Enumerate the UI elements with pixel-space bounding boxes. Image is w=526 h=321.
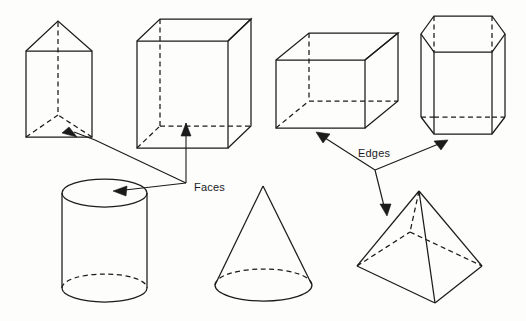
solid-cube bbox=[276, 33, 398, 128]
cube-top-face bbox=[276, 33, 398, 60]
square-pyramid-base-hidden-left bbox=[357, 232, 410, 266]
solid-rectangular-prism bbox=[137, 19, 251, 148]
faces-annotation: Faces bbox=[62, 123, 225, 196]
cone-slant-right bbox=[263, 186, 312, 285]
solid-cone bbox=[215, 186, 312, 301]
faces-leader-to-triangular-prism bbox=[95, 140, 186, 183]
edges-annotation: Edges bbox=[316, 132, 448, 216]
cube-hidden-bottom-edge-left bbox=[276, 101, 309, 128]
figure-canvas: Faces Edges bbox=[0, 0, 526, 321]
solid-triangular-prism bbox=[26, 21, 92, 137]
cylinder-top-face bbox=[62, 179, 147, 207]
square-pyramid-base-hidden-right bbox=[410, 232, 482, 266]
solid-cylinder bbox=[62, 179, 147, 302]
edges-label: Edges bbox=[358, 147, 390, 159]
cube-right-face bbox=[365, 33, 398, 128]
cone-base-front-arc bbox=[215, 285, 312, 301]
faces-leader-to-cylinder bbox=[125, 183, 186, 190]
faces-arrowhead-rectangular-prism bbox=[181, 123, 191, 136]
faces-label: Faces bbox=[194, 181, 225, 193]
triangular-prism-top-triangle bbox=[26, 21, 92, 51]
solid-square-pyramid bbox=[357, 191, 482, 303]
triangular-prism-hidden-base-edge-right bbox=[58, 115, 92, 137]
edges-arrowhead-cube bbox=[316, 132, 330, 143]
square-pyramid-base-front-left bbox=[357, 266, 435, 303]
cylinder-bottom-back-arc bbox=[62, 274, 147, 288]
rectangular-prism-top-face bbox=[137, 19, 251, 41]
cube-front-face bbox=[276, 60, 365, 128]
square-pyramid-lateral-edge-left bbox=[357, 191, 419, 266]
rectangular-prism-hidden-bottom-edge-left bbox=[137, 126, 160, 148]
geometry-figure: Faces Edges bbox=[0, 0, 526, 321]
rectangular-prism-right-face bbox=[228, 19, 251, 148]
triangular-prism-hidden-base-edge-left bbox=[26, 115, 58, 137]
square-pyramid-base-front-right bbox=[435, 266, 482, 303]
cylinder-bottom-front-arc bbox=[62, 288, 147, 302]
triangular-prism-front-face bbox=[26, 51, 92, 137]
solid-hexagonal-prism bbox=[421, 16, 505, 134]
cone-base-back-arc bbox=[215, 269, 312, 285]
edges-arrowhead-square-pyramid bbox=[380, 204, 391, 216]
cone-slant-left bbox=[215, 186, 263, 285]
